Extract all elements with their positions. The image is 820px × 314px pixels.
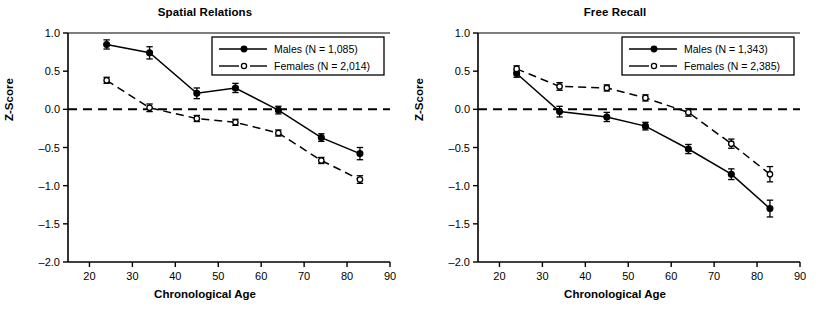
data-point-females [147, 105, 152, 110]
data-point-males [194, 90, 200, 96]
x-tick-label: 40 [169, 270, 181, 282]
y-tick-label: –1.5 [39, 218, 60, 230]
data-point-males [147, 50, 153, 56]
y-tick-label: 0.0 [455, 103, 470, 115]
data-point-females [686, 110, 691, 115]
y-tick-label: 0.0 [45, 103, 60, 115]
x-tick-label: 30 [536, 270, 548, 282]
data-point-females [557, 84, 562, 89]
legend-marker [651, 63, 656, 68]
y-tick-label: –0.5 [39, 142, 60, 154]
legend-marker [241, 63, 246, 68]
data-point-females [514, 66, 519, 71]
data-point-males [557, 109, 563, 115]
data-point-females [604, 85, 609, 90]
data-point-males [767, 206, 773, 212]
data-point-males [233, 85, 239, 91]
x-tick-label: 20 [83, 270, 95, 282]
data-point-males [318, 135, 324, 141]
y-tick-label: 1.0 [45, 27, 60, 39]
data-point-males [604, 114, 610, 120]
data-point-females [194, 116, 199, 121]
data-point-females [357, 177, 362, 182]
legend-label: Females (N = 2,014) [274, 60, 370, 72]
y-tick-label: 0.5 [455, 65, 470, 77]
y-tick-label: 1.0 [455, 27, 470, 39]
legend-label: Females (N = 2,385) [684, 60, 780, 72]
x-tick-label: 80 [341, 270, 353, 282]
y-tick-label: –1.0 [39, 180, 60, 192]
data-point-females [319, 158, 324, 163]
legend-marker [241, 46, 247, 52]
panel-free-recall: Free Recall Z-Score Chronological Age 1.… [410, 0, 820, 314]
data-point-females [104, 78, 109, 83]
x-tick-label: 50 [622, 270, 634, 282]
y-tick-label: –1.0 [449, 180, 470, 192]
data-point-females [729, 141, 734, 146]
x-tick-label: 80 [751, 270, 763, 282]
data-point-females [767, 172, 772, 177]
data-point-males [104, 42, 110, 48]
x-tick-label: 50 [212, 270, 224, 282]
y-tick-label: 0.5 [45, 65, 60, 77]
data-point-males [275, 107, 281, 113]
plot-area-free-recall: 1.00.50.0–0.5–1.0–1.5–2.0203040506070809… [410, 0, 820, 314]
x-tick-label: 60 [255, 270, 267, 282]
legend-label: Males (N = 1,343) [684, 43, 768, 55]
y-tick-label: –2.0 [39, 256, 60, 268]
y-tick-label: –2.0 [449, 256, 470, 268]
data-point-females [643, 95, 648, 100]
plot-area-spatial-relations: 1.00.50.0–0.5–1.0–1.5–2.0203040506070809… [0, 0, 410, 314]
x-tick-label: 20 [493, 270, 505, 282]
data-point-females [276, 130, 281, 135]
data-point-males [685, 146, 691, 152]
x-tick-label: 90 [794, 270, 806, 282]
series-line-females [517, 69, 770, 174]
y-tick-label: –1.5 [449, 218, 470, 230]
data-point-males [643, 123, 649, 129]
x-tick-label: 70 [708, 270, 720, 282]
data-point-males [728, 171, 734, 177]
legend-label: Males (N = 1,085) [274, 43, 358, 55]
data-point-males [357, 151, 363, 157]
series-line-females [107, 80, 360, 179]
y-tick-label: –0.5 [449, 142, 470, 154]
panel-spatial-relations: Spatial Relations Z-Score Chronological … [0, 0, 410, 314]
figure-two-panel-chart: Spatial Relations Z-Score Chronological … [0, 0, 820, 314]
x-tick-label: 60 [665, 270, 677, 282]
x-tick-label: 30 [126, 270, 138, 282]
x-tick-label: 70 [298, 270, 310, 282]
legend-marker [651, 46, 657, 52]
x-tick-label: 90 [384, 270, 396, 282]
data-point-females [233, 120, 238, 125]
x-tick-label: 40 [579, 270, 591, 282]
